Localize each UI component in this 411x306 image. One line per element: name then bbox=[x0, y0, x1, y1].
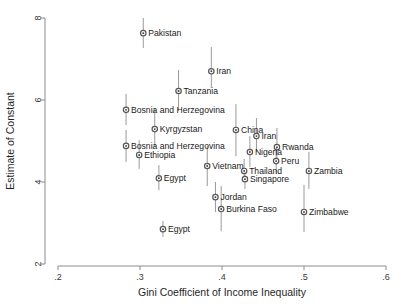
data-point-label: Nigeria bbox=[255, 147, 282, 157]
data-point-label: Pakistan bbox=[148, 28, 181, 38]
data-point-center bbox=[255, 135, 257, 137]
y-axis-title: Estimate of Constant bbox=[4, 92, 16, 190]
x-axis-title: Gini Coefficient of Income Inequality bbox=[138, 286, 307, 298]
data-point-label: Tanzania bbox=[184, 86, 219, 96]
data-point-center bbox=[235, 129, 237, 131]
y-tick-label: 6 bbox=[33, 97, 43, 102]
data-point-center bbox=[303, 211, 305, 213]
x-tick-label: .5 bbox=[300, 272, 308, 282]
data-point-center bbox=[275, 160, 277, 162]
data-point-label: Iran bbox=[216, 66, 231, 76]
data-points bbox=[123, 30, 311, 231]
data-point-label: Jordan bbox=[220, 192, 246, 202]
data-point-center bbox=[249, 151, 251, 153]
data-point-label: China bbox=[241, 125, 264, 135]
data-point-label: Ethiopia bbox=[144, 150, 175, 160]
data-point-center bbox=[154, 128, 156, 130]
x-tick-label: .6 bbox=[382, 272, 390, 282]
axis-titles: Gini Coefficient of Income InequalityEst… bbox=[4, 92, 307, 298]
x-tick-label: .2 bbox=[54, 272, 62, 282]
data-point-center bbox=[125, 109, 127, 111]
x-tick-label: .3 bbox=[136, 272, 144, 282]
y-tick-label: 8 bbox=[33, 15, 43, 20]
data-point-center bbox=[308, 170, 310, 172]
data-point-center bbox=[244, 178, 246, 180]
data-point-center bbox=[142, 32, 144, 34]
data-point-center bbox=[206, 165, 208, 167]
data-point-label: Zimbabwe bbox=[309, 207, 349, 217]
data-point-center bbox=[125, 145, 127, 147]
data-point-center bbox=[162, 228, 164, 230]
data-point-center bbox=[178, 90, 180, 92]
scatter-plot-figure: 2468.2.3.4.5.6 PakistanIranTanzaniaBosni… bbox=[0, 0, 411, 306]
data-point-label: Kyrgyzstan bbox=[160, 124, 203, 134]
data-point-label: Iran bbox=[261, 131, 276, 141]
data-point-label: Zambia bbox=[314, 166, 343, 176]
data-point-label: Bosnia and Herzegovina bbox=[131, 105, 225, 115]
data-point-center bbox=[138, 154, 140, 156]
data-point-center bbox=[214, 196, 216, 198]
data-point-label: Vietnam bbox=[212, 161, 243, 171]
y-tick-label: 2 bbox=[33, 261, 43, 266]
data-point-center bbox=[158, 177, 160, 179]
x-tick-label: .4 bbox=[218, 272, 226, 282]
data-point-label: Peru bbox=[281, 156, 299, 166]
data-point-label: Egypt bbox=[164, 173, 187, 183]
plot-canvas: 2468.2.3.4.5.6 PakistanIranTanzaniaBosni… bbox=[0, 0, 411, 306]
data-point-label: Egypt bbox=[168, 224, 191, 234]
data-point-label: Burkina Faso bbox=[226, 204, 277, 214]
data-point-label: Rwanda bbox=[282, 142, 314, 152]
data-point-center bbox=[220, 208, 222, 210]
data-point-label: Singapore bbox=[250, 174, 289, 184]
y-tick-label: 4 bbox=[33, 179, 43, 184]
point-labels: PakistanIranTanzaniaBosnia and Herzegovi… bbox=[131, 28, 349, 234]
data-point-center bbox=[210, 70, 212, 72]
